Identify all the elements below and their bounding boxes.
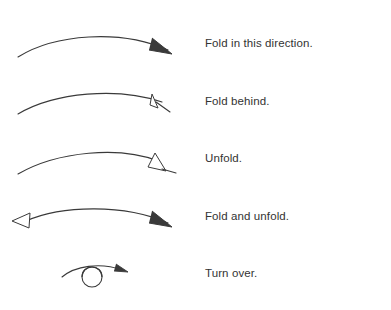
symbol-cell bbox=[0, 129, 205, 187]
symbol-cell bbox=[0, 244, 205, 302]
legend-row: Turn over. bbox=[0, 244, 391, 302]
legend-label-cell: Unfold. bbox=[205, 129, 391, 187]
legend-row: Fold in this direction. bbox=[0, 14, 391, 72]
legend-label-cell: Fold in this direction. bbox=[205, 14, 391, 72]
legend-row: Unfold. bbox=[0, 129, 391, 187]
arc-arrow-large-hollow-head-right-icon bbox=[0, 129, 205, 187]
legend-label: Turn over. bbox=[205, 266, 257, 280]
arc-arrow-solid-head-right-icon bbox=[0, 14, 205, 72]
symbol-cell bbox=[0, 72, 205, 130]
turn-over-arc-with-circle-icon bbox=[0, 244, 205, 302]
legend-label: Fold and unfold. bbox=[205, 209, 289, 223]
symbol-cell bbox=[0, 187, 205, 245]
legend-label-cell: Fold behind. bbox=[205, 72, 391, 130]
legend-label: Unfold. bbox=[205, 151, 242, 165]
arc-arrow-small-hollow-head-right-icon bbox=[0, 72, 205, 130]
legend-label: Fold behind. bbox=[205, 94, 270, 108]
symbol-cell bbox=[0, 14, 205, 72]
legend-label: Fold in this direction. bbox=[205, 36, 313, 50]
legend-row: Fold and unfold. bbox=[0, 187, 391, 245]
legend-label-cell: Fold and unfold. bbox=[205, 187, 391, 245]
legend-label-cell: Turn over. bbox=[205, 244, 391, 302]
arc-arrow-double-headed-icon bbox=[0, 187, 205, 245]
legend-row: Fold behind. bbox=[0, 72, 391, 130]
origami-symbol-legend: Fold in this direction. Fold behind. Unf… bbox=[0, 0, 391, 310]
